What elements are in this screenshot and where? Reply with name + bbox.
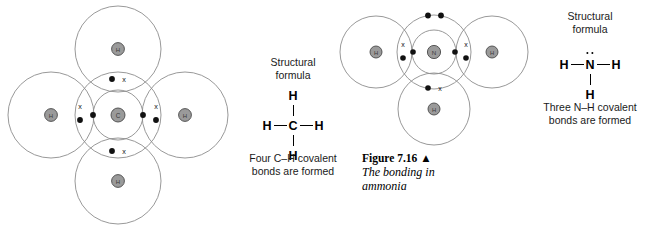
nitrogen-lone-pair — [425, 13, 444, 19]
svg-text:N: N — [432, 49, 436, 56]
shared-pair-left: x — [400, 41, 406, 61]
lone-pair-dots — [586, 52, 593, 54]
ammonia-shell-diagram: H H H N — [340, 2, 530, 150]
bond-horizontal-right — [597, 64, 610, 65]
ammonia-structural-formula: H N H H — [538, 57, 642, 102]
methane-bond-note: Four C–H covalent bonds are formed — [227, 152, 359, 178]
nucleus-group: H H H N — [370, 45, 498, 115]
nucleus-hydrogen-bottom: H — [428, 103, 440, 115]
bond-vertical-lower — [590, 74, 591, 85]
svg-text:x: x — [122, 75, 126, 84]
figure-canvas: H H H H C — [0, 0, 654, 229]
shared-pair-bottom: x — [109, 147, 126, 156]
nucleus-hydrogen-right: H — [179, 109, 192, 122]
bond-horizontal-left — [571, 64, 584, 65]
formula-row-bond-upper — [241, 103, 345, 118]
bond-horizontal-left — [274, 125, 287, 126]
figure-title: The bonding in ammonia — [362, 165, 467, 193]
svg-text:x: x — [154, 102, 158, 111]
svg-text:C: C — [116, 112, 121, 119]
nucleus-hydrogen-left: H — [45, 109, 58, 122]
formula-row-top: H — [241, 88, 345, 103]
svg-text:x: x — [78, 102, 82, 111]
svg-text:H: H — [374, 50, 378, 56]
formula-row-bond-lower — [538, 72, 642, 87]
methane-shell-diagram: H H H H C — [4, 2, 232, 220]
ammonia-formula-n: N — [585, 58, 596, 72]
figure-label: Figure 7.16 ▲ — [362, 152, 467, 164]
formula-row-bond-lower — [241, 133, 345, 148]
ammonia-formula-n-label: N — [585, 58, 594, 72]
methane-formula-h-left: H — [262, 119, 273, 133]
svg-text:H: H — [116, 179, 120, 185]
bond-vertical-upper — [293, 105, 294, 116]
shared-pair-right: x — [153, 102, 159, 123]
shared-pair-bottom: x — [425, 85, 442, 92]
nucleus-group: H H H H C — [45, 43, 192, 188]
nucleus-hydrogen-top: H — [112, 43, 125, 56]
methane-formula-h-top: H — [288, 89, 299, 103]
shared-pair-left: x — [77, 102, 83, 123]
svg-text:H: H — [183, 113, 187, 119]
svg-text:H: H — [490, 50, 494, 56]
bond-vertical-lower — [293, 135, 294, 146]
nucleus-hydrogen-bottom: H — [112, 175, 125, 188]
methane-structural-formula-title: Structural formula — [241, 56, 345, 82]
ammonia-formula-h-right: H — [611, 58, 622, 72]
bond-horizontal-right — [300, 125, 313, 126]
formula-row-bottom: H — [538, 87, 642, 102]
formula-row-middle: H C H — [241, 118, 345, 133]
figure-caption: Figure 7.16 ▲ The bonding in ammonia — [362, 152, 467, 193]
ammonia-formula-h-left: H — [559, 58, 570, 72]
svg-text:x: x — [464, 41, 468, 48]
shared-pair-right: x — [463, 41, 469, 61]
ammonia-structural-formula-title: Structural formula — [538, 10, 642, 36]
svg-text:H: H — [49, 113, 53, 119]
methane-formula-c: C — [288, 119, 299, 133]
nucleus-hydrogen-right: H — [486, 46, 498, 58]
formula-row-middle: H N H — [538, 57, 642, 72]
shared-pair-top: x — [109, 75, 126, 84]
nucleus-carbon: C — [111, 108, 125, 122]
svg-text:x: x — [401, 41, 405, 48]
ammonia-formula-h-bottom: H — [585, 88, 596, 102]
ammonia-bond-note: Three N–H covalent bonds are formed — [524, 101, 654, 127]
methane-formula-h-right: H — [314, 119, 325, 133]
svg-text:H: H — [432, 107, 436, 113]
nucleus-nitrogen: N — [427, 45, 440, 58]
svg-text:x: x — [438, 85, 442, 92]
nucleus-hydrogen-left: H — [370, 46, 382, 58]
svg-text:H: H — [116, 47, 120, 53]
svg-text:x: x — [122, 147, 126, 156]
